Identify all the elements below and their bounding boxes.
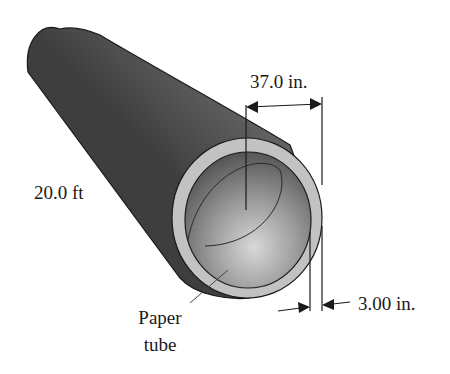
arrowhead-right-icon xyxy=(310,98,322,110)
tube-inner-opening xyxy=(185,152,311,288)
thickness-label: 3.00 in. xyxy=(358,294,416,313)
part-label-line1: Paper xyxy=(130,308,190,327)
arrowhead-thickness-left-icon xyxy=(298,302,310,313)
part-label-line2: tube xyxy=(130,335,190,354)
arrowhead-left-icon xyxy=(246,101,258,113)
diameter-dimension-line xyxy=(248,104,320,107)
arrowhead-thickness-right-icon xyxy=(322,299,334,310)
diameter-label: 37.0 in. xyxy=(250,72,308,91)
length-label: 20.0 ft xyxy=(34,183,84,202)
